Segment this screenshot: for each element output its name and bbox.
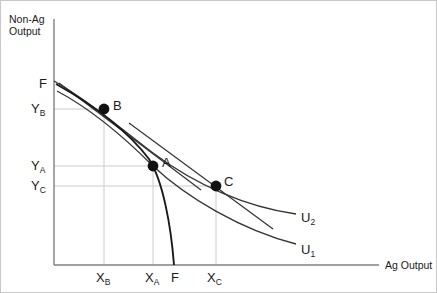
y-axis-title-line1: Non-Ag: [9, 13, 45, 25]
indifference-curve-u1: [57, 91, 296, 244]
y-b-sub: B: [40, 108, 46, 118]
label-f-terminus: F: [171, 270, 179, 285]
point-b-label: B: [113, 98, 122, 113]
y-a-sub: A: [40, 165, 46, 175]
x-c-text: X: [207, 270, 216, 285]
x-axis-title: Ag Output: [385, 259, 432, 271]
u2-text: U: [301, 210, 310, 225]
label-y-c: YC: [31, 178, 46, 193]
point-b-marker: [99, 104, 110, 115]
indifference-curve-u2: [54, 81, 296, 214]
label-x-b: XB: [96, 270, 110, 285]
label-y-a: YA: [31, 158, 45, 173]
price-line-ac: [129, 123, 273, 229]
x-a-text: X: [145, 270, 154, 285]
economics-ppf-diagram: Non-AgOutput Ag Output F YB YA YC XB XA …: [0, 0, 437, 293]
u2-sub: 2: [310, 217, 315, 227]
x-b-text: X: [96, 270, 105, 285]
y-c-sub: C: [40, 185, 46, 195]
curve-label-u2: U2: [301, 210, 315, 225]
point-c-label: C: [224, 174, 233, 189]
diagram-canvas: [1, 1, 437, 293]
curve-label-u1: U1: [301, 242, 315, 257]
x-c-sub: C: [216, 277, 222, 287]
u1-sub: 1: [310, 249, 315, 259]
label-x-a: XA: [145, 270, 159, 285]
f-intercept-text: F: [39, 76, 47, 91]
x-b-sub: B: [105, 277, 111, 287]
gridlines: [54, 109, 216, 265]
y-b-text: Y: [31, 101, 40, 116]
y-axis-title-line2: Output: [9, 25, 41, 37]
point-c-marker: [211, 181, 222, 192]
label-y-b: YB: [31, 101, 45, 116]
y-a-text: Y: [31, 158, 40, 173]
point-a-marker: [148, 161, 159, 172]
point-a-label: A: [162, 155, 171, 170]
y-axis-title: Non-AgOutput: [9, 13, 45, 38]
label-f-intercept: F: [39, 76, 47, 91]
u1-text: U: [301, 242, 310, 257]
x-a-sub: A: [154, 277, 160, 287]
label-x-c: XC: [207, 270, 222, 285]
y-c-text: Y: [31, 178, 40, 193]
